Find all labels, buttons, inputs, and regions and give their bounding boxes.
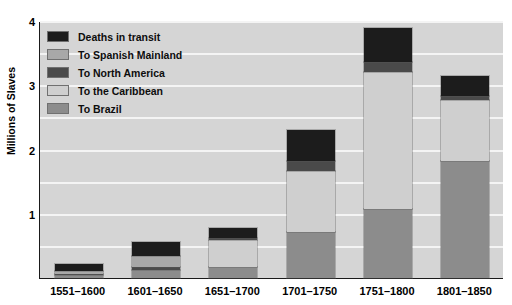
legend-item-to-spanish-mainland[interactable]: To Spanish Mainland: [47, 46, 207, 63]
y-tick-4: 4: [16, 16, 35, 28]
x-tick-1801–1850: 1801–1850: [426, 285, 503, 298]
legend-swatch-icon: [47, 67, 69, 78]
gridline-1.5: [40, 182, 503, 184]
legend-label: To North America: [78, 67, 165, 79]
legend-label: Deaths in transit: [78, 31, 160, 43]
legend-item-deaths-in-transit[interactable]: Deaths in transit: [47, 28, 207, 45]
chart-legend: Deaths in transitTo Spanish MainlandTo N…: [47, 28, 207, 118]
bar-1601–1650[interactable]: [132, 242, 180, 278]
bar-segment-to-north-america[interactable]: [287, 161, 335, 171]
bar-segment-deaths-in-transit[interactable]: [441, 76, 489, 95]
gridline-1: [40, 214, 503, 216]
bar-1701–1750[interactable]: [287, 130, 335, 278]
x-tick-1601–1650: 1601–1650: [116, 285, 193, 298]
bar-segment-to-the-caribbean[interactable]: [441, 100, 489, 161]
bar-1801–1850[interactable]: [441, 76, 489, 278]
bar-1551–1600[interactable]: [55, 264, 103, 278]
gridline-4: [40, 21, 503, 23]
y-tick-3: 3: [16, 80, 35, 92]
y-tick-2: 2: [16, 145, 35, 157]
bar-segment-to-brazil[interactable]: [287, 232, 335, 278]
gridline-0.5: [40, 246, 503, 248]
bar-segment-to-north-america[interactable]: [132, 267, 180, 270]
legend-swatch-icon: [47, 31, 69, 42]
bar-segment-to-brazil[interactable]: [364, 209, 412, 278]
bar-1651–1700[interactable]: [209, 228, 257, 278]
bar-segment-to-brazil[interactable]: [209, 267, 257, 278]
legend-label: To Brazil: [78, 103, 122, 115]
bar-segment-to-brazil[interactable]: [55, 275, 103, 278]
chart-figure: Millions of Slaves 4321 1551–16001601–16…: [0, 0, 512, 305]
x-tick-1551–1600: 1551–1600: [39, 285, 116, 298]
legend-item-to-the-caribbean[interactable]: To the Caribbean: [47, 82, 207, 99]
bar-segment-to-brazil[interactable]: [441, 161, 489, 278]
bar-segment-deaths-in-transit[interactable]: [209, 228, 257, 238]
bar-segment-to-spanish-mainland[interactable]: [55, 271, 103, 274]
x-tick-1651–1700: 1651–1700: [194, 285, 271, 298]
bar-segment-to-spanish-mainland[interactable]: [132, 256, 180, 267]
bar-segment-to-the-caribbean[interactable]: [209, 240, 257, 267]
bar-segment-to-north-america[interactable]: [209, 238, 257, 241]
legend-swatch-icon: [47, 85, 69, 96]
legend-item-to-brazil[interactable]: To Brazil: [47, 100, 207, 117]
x-tick-1701–1750: 1701–1750: [271, 285, 348, 298]
legend-swatch-icon: [47, 103, 69, 114]
gridline-2: [40, 150, 503, 152]
bar-segment-to-the-caribbean[interactable]: [287, 171, 335, 232]
bar-segment-to-brazil[interactable]: [132, 270, 180, 278]
bar-segment-to-north-america[interactable]: [55, 274, 103, 275]
bar-segment-deaths-in-transit[interactable]: [132, 242, 180, 256]
legend-label: To Spanish Mainland: [78, 49, 182, 61]
bar-segment-to-north-america[interactable]: [441, 96, 489, 100]
legend-item-to-north-america[interactable]: To North America: [47, 64, 207, 81]
bar-segment-deaths-in-transit[interactable]: [287, 130, 335, 161]
bar-1751–1800[interactable]: [364, 28, 412, 278]
x-tick-1751–1800: 1751–1800: [348, 285, 425, 298]
legend-swatch-icon: [47, 49, 69, 60]
bar-segment-deaths-in-transit[interactable]: [364, 28, 412, 62]
y-tick-1: 1: [16, 209, 35, 221]
bar-segment-to-north-america[interactable]: [364, 62, 412, 72]
bar-segment-to-the-caribbean[interactable]: [364, 72, 412, 208]
bar-segment-deaths-in-transit[interactable]: [55, 264, 103, 271]
legend-label: To the Caribbean: [78, 85, 163, 97]
